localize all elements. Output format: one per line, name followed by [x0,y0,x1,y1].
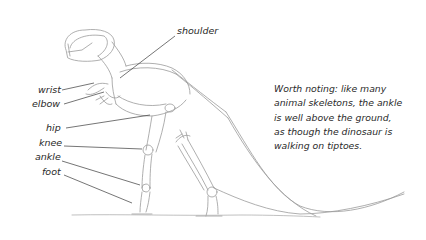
label-wrist: wrist [38,84,61,95]
note-line: Worth noting: like many [274,82,426,96]
hip-leader [66,115,150,128]
knee-leader [64,146,142,149]
note-line: is well above the ground, [274,111,426,125]
body-sketch [112,63,228,118]
label-foot: foot [42,166,61,177]
label-knee: knee [39,137,62,148]
head-sketch [65,29,126,78]
arm-sketch [86,83,120,104]
label-shoulder: shoulder [177,25,218,36]
hind-leg-sketch [176,130,222,216]
note-line: as though the dinosaur is [274,125,426,139]
front-leg-sketch [132,104,175,214]
note-line: walking on tiptoes. [274,139,426,153]
label-hip: hip [46,122,61,133]
annotation-note: Worth noting: like many animal skeletons… [274,82,426,153]
elbow-leader [64,92,104,104]
label-ankle: ankle [35,151,61,162]
ankle-leader [62,161,140,185]
shoulder-leader [120,36,175,78]
note-line: animal skeletons, the ankle [274,96,426,110]
label-elbow: elbow [32,98,60,109]
